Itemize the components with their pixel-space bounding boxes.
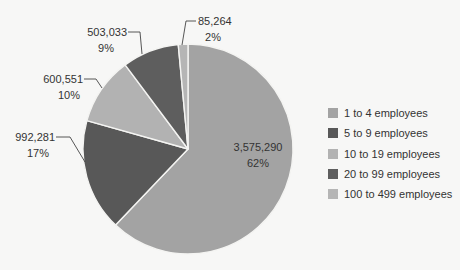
chart-legend: 1 to 4 employees 5 to 9 employees 10 to …	[328, 103, 452, 204]
legend-label: 10 to 19 employees	[344, 148, 440, 160]
legend-swatch-icon	[328, 149, 338, 159]
slice-label-value-4: 85,264	[198, 15, 232, 27]
slice-label-percent-4: 2%	[205, 31, 221, 43]
legend-label: 100 to 499 employees	[344, 188, 452, 200]
slice-label-percent-3: 9%	[98, 42, 114, 54]
leader-line-4	[182, 21, 196, 45]
slice-label-value-0: 3,575,290	[234, 141, 283, 153]
legend-label: 1 to 4 employees	[344, 107, 428, 119]
legend-swatch-icon	[328, 189, 338, 199]
slice-label-percent-2: 10%	[58, 89, 80, 101]
legend-swatch-icon	[328, 108, 338, 118]
legend-label: 5 to 9 employees	[344, 127, 428, 139]
slice-label-value-3: 503,033	[87, 26, 127, 38]
slice-label-value-2: 600,551	[43, 73, 83, 85]
legend-swatch-icon	[328, 169, 338, 179]
legend-item-20-to-99: 20 to 99 employees	[328, 164, 452, 184]
leader-line-3	[128, 32, 142, 54]
legend-item-1-to-4: 1 to 4 employees	[328, 103, 452, 123]
legend-swatch-icon	[328, 128, 338, 138]
leader-line-1	[56, 137, 85, 162]
slice-label-percent-1: 17%	[27, 147, 49, 159]
leader-line-2	[84, 79, 102, 88]
legend-label: 20 to 99 employees	[344, 168, 440, 180]
slice-label-value-1: 992,281	[15, 131, 55, 143]
legend-item-5-to-9: 5 to 9 employees	[328, 123, 452, 143]
slice-label-percent-0: 62%	[247, 157, 269, 169]
legend-item-10-to-19: 10 to 19 employees	[328, 144, 452, 164]
legend-item-100-to-499: 100 to 499 employees	[328, 184, 452, 204]
